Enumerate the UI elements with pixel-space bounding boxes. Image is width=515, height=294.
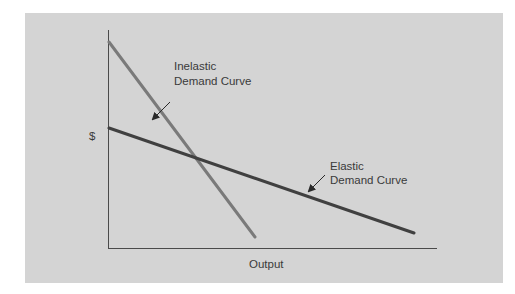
elastic-label-line1: Elastic: [330, 160, 364, 172]
inelastic-label-line2: Demand Curve: [174, 75, 251, 87]
inelastic-label-line1: Inelastic: [174, 60, 216, 72]
demand-chart: Inelastic Demand Curve Elastic Demand Cu…: [0, 0, 515, 294]
x-axis-label: Output: [249, 258, 284, 270]
elastic-label-line2: Demand Curve: [330, 174, 407, 186]
y-axis-label: $: [89, 130, 96, 142]
elastic-arrow-icon: [309, 175, 325, 191]
